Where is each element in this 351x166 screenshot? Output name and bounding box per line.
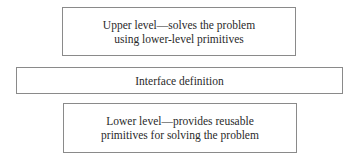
upper-level-box: Upper level—solves the problem using low… <box>62 7 296 56</box>
upper-level-text-line-1: Upper level—solves the problem <box>103 18 255 32</box>
interface-definition-text: Interface definition <box>135 74 223 88</box>
lower-level-box: Lower level—provides reusable primitives… <box>63 103 297 153</box>
lower-level-text-line-1: Lower level—provides reusable <box>106 114 254 128</box>
upper-level-text-line-2: using lower-level primitives <box>114 32 243 46</box>
lower-level-text-line-2: primitives for solving the problem <box>101 128 259 142</box>
interface-definition-box: Interface definition <box>16 67 343 94</box>
